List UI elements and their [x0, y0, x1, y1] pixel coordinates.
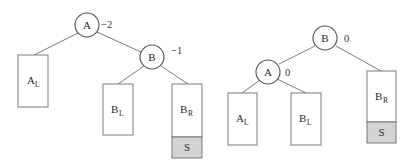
subtree-bl: B L: [103, 84, 133, 135]
node-a: A: [75, 13, 99, 37]
tree-after: B 0 A 0 A L B L B R S: [228, 26, 396, 145]
inserted-s-label: S: [184, 141, 190, 153]
node-a-label: A: [264, 66, 272, 78]
subtree-bl-label: B: [111, 103, 118, 115]
edge-b-br: [161, 66, 188, 84]
edge-b-bl: [118, 66, 144, 84]
edge-a-b: [97, 32, 141, 52]
subtree-al-sub: L: [35, 80, 40, 89]
subtree-al-label: A: [27, 74, 35, 86]
subtree-bl-label: B: [299, 112, 306, 124]
edge-a-bl: [277, 79, 306, 93]
subtree-al: A L: [228, 93, 257, 145]
balance-factor-b: −1: [171, 45, 182, 56]
subtree-bl: B L: [291, 93, 321, 145]
subtree-br: B R: [172, 84, 202, 137]
edge-a-al: [34, 33, 78, 55]
edge-b-br: [336, 46, 381, 71]
node-b: B: [140, 45, 164, 69]
node-b-label: B: [148, 51, 155, 63]
tree-before: A −2 B −1 A L B L B R S: [18, 13, 202, 158]
avl-rotation-diagram: A −2 B −1 A L B L B R S: [0, 0, 414, 167]
subtree-br-sub: R: [188, 109, 193, 118]
subtree-br-label: B: [375, 90, 382, 102]
node-b: B: [313, 26, 337, 50]
balance-factor-a: 0: [285, 67, 290, 78]
subtree-bl-sub: L: [119, 109, 124, 118]
node-b-label: B: [321, 32, 328, 44]
balance-factor-b: 0: [344, 33, 349, 44]
node-a-label: A: [83, 19, 91, 31]
inserted-s-label: S: [378, 126, 384, 138]
node-a: A: [256, 60, 280, 84]
subtree-al: A L: [18, 55, 48, 107]
subtree-br-label: B: [180, 103, 187, 115]
inserted-node-s: S: [172, 137, 202, 158]
edge-b-a: [279, 46, 315, 64]
subtree-br: B R: [367, 71, 396, 122]
subtree-al-label: A: [236, 112, 244, 124]
balance-factor-a: −2: [101, 19, 112, 30]
inserted-node-s: S: [367, 122, 396, 143]
edge-a-al: [242, 80, 260, 93]
subtree-bl-sub: L: [307, 118, 312, 127]
subtree-al-sub: L: [244, 118, 249, 127]
subtree-br-sub: R: [383, 96, 388, 105]
